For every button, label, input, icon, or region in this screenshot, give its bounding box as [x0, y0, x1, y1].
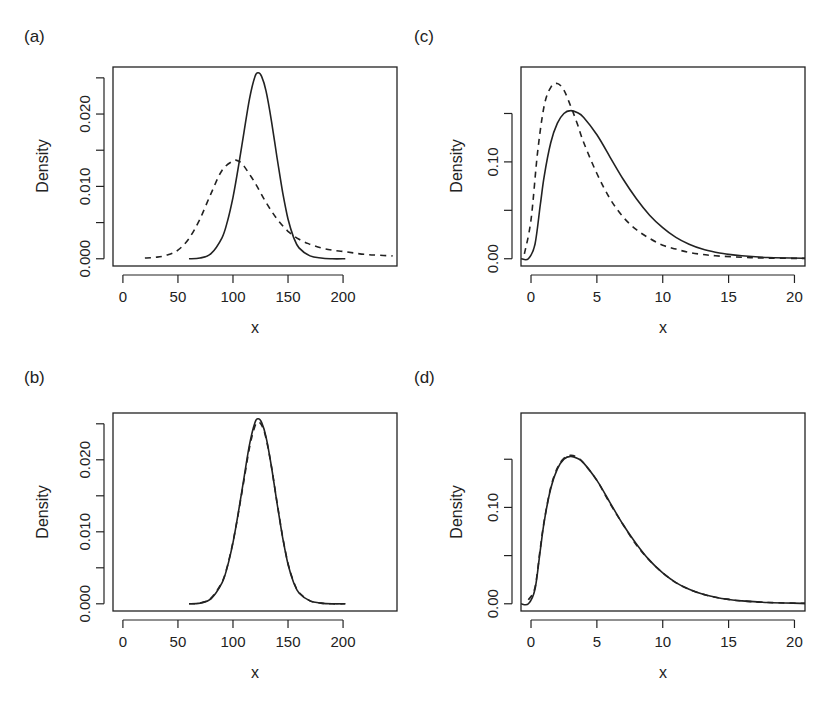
y-tick-label: 0.020	[76, 441, 93, 479]
x-tick-label: 20	[786, 288, 803, 305]
x-tick-label: 0	[119, 633, 127, 650]
y-axis-label-c: Density	[448, 139, 465, 192]
dashed-density-curve-c	[524, 83, 805, 258]
y-tick-label: 0.010	[76, 168, 93, 206]
x-axis-d: 05101520	[527, 620, 803, 650]
y-tick-label: 0.00	[484, 589, 501, 618]
x-tick-label: 15	[720, 633, 737, 650]
x-tick-label: 150	[276, 288, 301, 305]
y-axis-c: 0.000.10	[484, 113, 512, 273]
x-tick-label: 0	[527, 633, 535, 650]
x-tick-label: 200	[331, 633, 356, 650]
figure-canvas: (a) x Density 0501001502000.0000.0100.02…	[0, 0, 828, 704]
figure: (a) x Density 0501001502000.0000.0100.02…	[0, 0, 828, 704]
plot-frame-c	[521, 67, 805, 266]
panel-label-d: (d)	[414, 368, 435, 387]
solid-density-curve-d	[521, 456, 805, 604]
x-axis-b: 050100150200	[119, 620, 356, 650]
x-tick-label: 100	[220, 288, 245, 305]
y-tick-label: 0.010	[76, 513, 93, 551]
x-axis-label-a: x	[251, 319, 259, 336]
x-tick-label: 5	[593, 288, 601, 305]
x-axis-a: 050100150200	[119, 275, 356, 305]
y-tick-label: 0.000	[76, 240, 93, 278]
x-tick-label: 150	[276, 633, 301, 650]
y-axis-d: 0.000.10	[484, 459, 512, 618]
plot-frame-d	[521, 413, 805, 611]
panel-b: (b) x Density 0501001502000.0000.0100.02…	[24, 368, 397, 681]
x-tick-label: 5	[593, 633, 601, 650]
x-tick-label: 50	[170, 288, 187, 305]
plot-frame-b	[113, 413, 397, 611]
x-axis-label-d: x	[659, 664, 667, 681]
y-axis-b: 0.0000.0100.020	[76, 424, 104, 623]
y-tick-label: 0.10	[484, 147, 501, 176]
panel-label-b: (b)	[24, 368, 45, 387]
dashed-density-curve-a	[145, 160, 393, 258]
x-tick-label: 10	[654, 288, 671, 305]
y-tick-label: 0.10	[484, 493, 501, 522]
y-axis-label-a: Density	[34, 139, 51, 192]
x-tick-label: 50	[170, 633, 187, 650]
x-axis-label-c: x	[659, 319, 667, 336]
y-tick-label: 0.000	[76, 585, 93, 623]
y-axis-a: 0.0000.0100.020	[76, 78, 104, 278]
x-tick-label: 10	[654, 633, 671, 650]
plot-frame-a	[113, 67, 397, 266]
panel-a: (a) x Density 0501001502000.0000.0100.02…	[24, 27, 397, 336]
solid-density-curve-a	[189, 73, 345, 259]
x-tick-label: 15	[720, 288, 737, 305]
panel-label-a: (a)	[24, 27, 45, 46]
panel-d: (d) x Density 051015200.000.10	[414, 368, 805, 681]
y-tick-label: 0.020	[76, 95, 93, 133]
solid-density-curve-c	[521, 111, 805, 260]
x-tick-label: 200	[331, 288, 356, 305]
x-tick-label: 0	[119, 288, 127, 305]
x-tick-label: 20	[786, 633, 803, 650]
y-axis-label-b: Density	[34, 485, 51, 538]
y-tick-label: 0.00	[484, 244, 501, 273]
y-axis-label-d: Density	[448, 485, 465, 538]
dashed-density-curve-b	[189, 422, 345, 603]
panel-c: (c) x Density 051015200.000.10	[414, 27, 805, 336]
dashed-density-curve-d	[528, 455, 805, 603]
x-axis-c: 05101520	[527, 275, 803, 305]
panel-label-c: (c)	[414, 27, 434, 46]
x-tick-label: 0	[527, 288, 535, 305]
x-axis-label-b: x	[251, 664, 259, 681]
x-tick-label: 100	[220, 633, 245, 650]
